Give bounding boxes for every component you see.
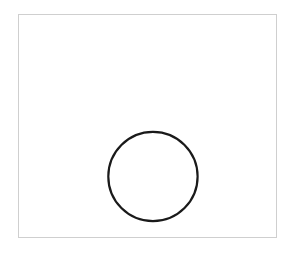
figure-description: A single black circle outline drawn in t… [0,0,1,1]
screenshot-canvas: A single black circle outline drawn in t… [0,0,290,254]
circle-outline [108,132,197,221]
drawing-surface [19,15,276,237]
figure-border [18,14,277,238]
